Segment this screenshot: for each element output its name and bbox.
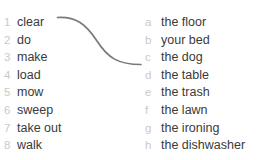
list-item[interactable]: 2 do: [4, 32, 134, 50]
item-marker: b: [145, 32, 161, 50]
list-item[interactable]: 7 take out: [4, 120, 134, 138]
item-marker: 4: [4, 67, 17, 85]
match-columns: 1 clear 2 do 3 make 4 load 5 mow 6 sweep: [0, 0, 263, 160]
list-item[interactable]: 4 load: [4, 67, 134, 85]
item-phrase: the dog: [161, 49, 203, 67]
list-item[interactable]: c the dog: [145, 49, 263, 67]
item-marker: 3: [4, 49, 17, 67]
item-phrase: take out: [17, 120, 61, 138]
list-item[interactable]: 6 sweep: [4, 102, 134, 120]
item-phrase: the lawn: [161, 102, 208, 120]
item-marker: 6: [4, 102, 17, 120]
item-marker: a: [145, 14, 161, 32]
item-marker: f: [145, 102, 161, 120]
item-phrase: load: [17, 67, 41, 85]
item-marker: c: [145, 49, 161, 67]
left-column: 1 clear 2 do 3 make 4 load 5 mow 6 sweep: [4, 14, 134, 155]
item-phrase: sweep: [17, 102, 53, 120]
item-marker: e: [145, 84, 161, 102]
item-marker: 5: [4, 84, 17, 102]
list-item[interactable]: g the ironing: [145, 120, 263, 138]
item-marker: g: [145, 120, 161, 138]
item-phrase: mow: [17, 84, 43, 102]
item-marker: 7: [4, 120, 17, 138]
item-phrase: the floor: [161, 14, 206, 32]
list-item[interactable]: b your bed: [145, 32, 263, 50]
item-phrase: the trash: [161, 84, 210, 102]
item-phrase: the dishwasher: [161, 137, 245, 155]
item-marker: d: [145, 67, 161, 85]
item-marker: 8: [4, 137, 17, 155]
item-phrase: make: [17, 49, 48, 67]
list-item[interactable]: 5 mow: [4, 84, 134, 102]
item-phrase: do: [17, 32, 31, 50]
list-item[interactable]: e the trash: [145, 84, 263, 102]
list-item[interactable]: a the floor: [145, 14, 263, 32]
item-marker: 2: [4, 32, 17, 50]
item-phrase: the ironing: [161, 120, 219, 138]
list-item[interactable]: 8 walk: [4, 137, 134, 155]
item-marker: 1: [4, 14, 17, 32]
right-column: a the floor b your bed c the dog d the t…: [145, 14, 263, 155]
list-item[interactable]: 3 make: [4, 49, 134, 67]
list-item[interactable]: 1 clear: [4, 14, 134, 32]
list-item[interactable]: f the lawn: [145, 102, 263, 120]
item-phrase: your bed: [161, 32, 210, 50]
matching-exercise: 1 clear 2 do 3 make 4 load 5 mow 6 sweep: [0, 0, 263, 160]
item-phrase: walk: [17, 137, 42, 155]
item-phrase: clear: [17, 14, 44, 32]
list-item[interactable]: h the dishwasher: [145, 137, 263, 155]
item-phrase: the table: [161, 67, 209, 85]
item-marker: h: [145, 137, 161, 155]
list-item[interactable]: d the table: [145, 67, 263, 85]
